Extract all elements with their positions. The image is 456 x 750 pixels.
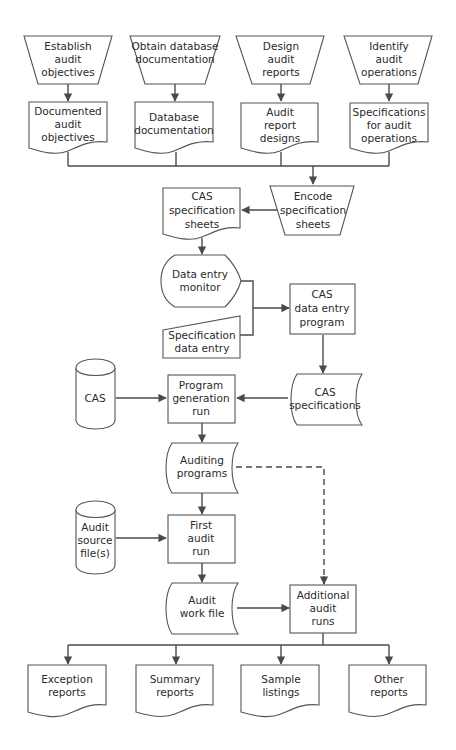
edge-auditprog-additional-dashed <box>236 467 324 584</box>
node-casprogram: CASdata entryprogram <box>290 284 355 334</box>
svg-text:Summaryreports: Summaryreports <box>150 673 201 698</box>
svg-text:Specificationdata entry: Specificationdata entry <box>168 329 235 354</box>
svg-text:Auditingprograms: Auditingprograms <box>177 454 227 479</box>
node-progrun: Programgenerationrun <box>168 375 235 423</box>
svg-text:CAS: CAS <box>84 392 106 404</box>
node-firstrun: Firstauditrun <box>168 515 235 563</box>
node-monitor: Data entrymonitor <box>161 255 241 307</box>
node-sourcefile: Auditsourcefile(s) <box>76 501 115 574</box>
node-additional: Additionalauditruns <box>290 585 356 633</box>
node-obtain: Obtain databasedocumentation <box>130 36 220 84</box>
svg-text:Otherreports: Otherreports <box>370 673 408 698</box>
node-specops: Specificationsfor auditoperations <box>350 103 428 153</box>
node-encode: Encodespecificationsheets <box>270 186 354 235</box>
svg-text:Samplelistings: Samplelistings <box>261 673 300 698</box>
node-workfile: Auditwork file <box>166 583 238 634</box>
node-documented: Documentedauditobjectives <box>29 102 107 153</box>
node-sample: Samplelistings <box>241 665 319 717</box>
node-exception: Exceptionreports <box>28 665 106 717</box>
audit-flowchart: Establishauditobjectives Obtain database… <box>0 0 456 750</box>
node-other: Otherreports <box>349 665 426 717</box>
svg-text:Designauditreports: Designauditreports <box>262 40 300 78</box>
svg-text:Data entrymonitor: Data entrymonitor <box>172 268 228 293</box>
node-casspecs: CASspecifications <box>289 374 362 425</box>
node-cas: CAS <box>76 359 115 429</box>
node-reportdesigns: Auditreportdesigns <box>241 103 318 153</box>
svg-text:Auditsourcefile(s): Auditsourcefile(s) <box>78 521 113 559</box>
svg-text:Exceptionreports: Exceptionreports <box>41 673 93 698</box>
node-auditprog: Auditingprograms <box>166 443 238 493</box>
merge-bracket <box>240 281 253 335</box>
node-design: Designauditreports <box>236 36 324 84</box>
node-cassheets: CASspecificationsheets <box>163 188 240 239</box>
svg-text:Obtain databasedocumentation: Obtain databasedocumentation <box>131 40 218 65</box>
node-specentry: Specificationdata entry <box>163 316 240 358</box>
node-identify: Identifyauditoperations <box>344 36 432 84</box>
node-establish: Establishauditobjectives <box>24 36 112 84</box>
node-summary: Summaryreports <box>136 665 213 717</box>
node-dbdoc: Databasedocumentation <box>134 102 214 153</box>
